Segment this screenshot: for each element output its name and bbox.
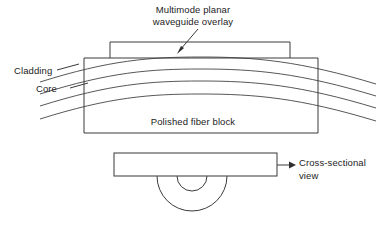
cross-section-group (114, 153, 296, 211)
cross-section-arrow-head (289, 162, 296, 169)
diagram-canvas (0, 0, 386, 228)
core-leader-line (70, 83, 88, 88)
waveguide-overlay-diagram: Multimode planar waveguide overlay Cladd… (0, 0, 386, 228)
cross-section-callout-arrow (277, 162, 296, 169)
cladding-leader-line (57, 64, 79, 70)
cross-sectional-view-label: Cross-sectional view (299, 157, 383, 182)
core-label: Core (36, 83, 57, 95)
polished-fiber-block-label: Polished fiber block (0, 116, 386, 128)
cross-section-outer-semicircle (157, 176, 227, 211)
overlay-title-line1: Multimode planar (156, 4, 230, 15)
overlay-title-label: Multimode planar waveguide overlay (0, 4, 386, 27)
waveguide-overlay-box (110, 42, 290, 58)
cross-sectional-view-line2: view (299, 170, 383, 183)
cladding-label: Cladding (14, 65, 52, 77)
curve-core-lower (40, 81, 376, 108)
overlay-title-line2: waveguide overlay (0, 16, 386, 28)
cross-section-inner-semicircle (177, 176, 207, 191)
cross-section-block (114, 153, 277, 176)
overlay-arrow-shaft (180, 29, 198, 50)
fiber-layer-curves (40, 57, 376, 121)
cross-sectional-view-line1: Cross-sectional (299, 157, 366, 168)
